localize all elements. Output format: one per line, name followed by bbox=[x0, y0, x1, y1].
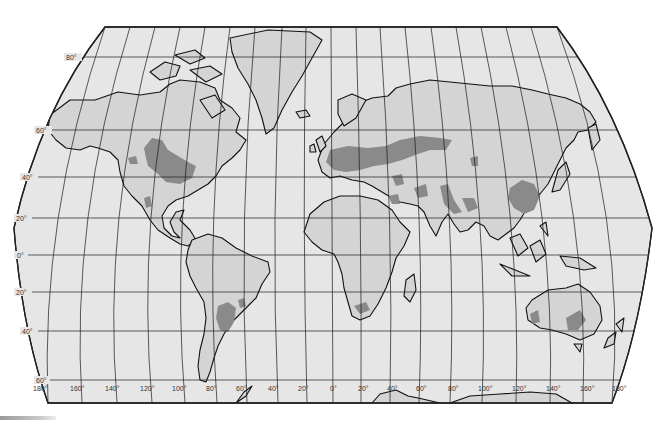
lon-label: 120° bbox=[512, 385, 527, 392]
lon-label: 80° bbox=[206, 385, 217, 392]
lat-label: 0° bbox=[17, 252, 24, 259]
lat-label: 20° bbox=[16, 215, 27, 222]
lon-label: 100° bbox=[478, 385, 493, 392]
lat-label: 40° bbox=[22, 174, 33, 181]
lon-label: 140° bbox=[546, 385, 561, 392]
lon-label: 120° bbox=[140, 385, 155, 392]
lon-label: 60° bbox=[236, 385, 247, 392]
lon-label: 0° bbox=[330, 385, 337, 392]
lon-label: 180° bbox=[33, 385, 48, 392]
lon-label: 20° bbox=[298, 385, 309, 392]
lon-label: 60° bbox=[416, 385, 427, 392]
lon-label: 180° bbox=[612, 385, 627, 392]
lon-label: 160° bbox=[580, 385, 595, 392]
lat-label: 40° bbox=[22, 328, 33, 335]
lon-label: 160° bbox=[70, 385, 85, 392]
lon-label: 40° bbox=[268, 385, 279, 392]
lon-label: 20° bbox=[358, 385, 369, 392]
page-edge-shadow bbox=[0, 416, 56, 420]
lat-label: 60° bbox=[36, 377, 47, 384]
lon-label: 40° bbox=[387, 385, 398, 392]
lat-label: 80° bbox=[66, 54, 77, 61]
lon-label: 80° bbox=[448, 385, 459, 392]
lon-label: 140° bbox=[105, 385, 120, 392]
lat-label: 20° bbox=[16, 289, 27, 296]
lon-label: 100° bbox=[172, 385, 187, 392]
world-map: 80° 60° 40° 20° 0° 20° 40° 60° 180° 160°… bbox=[0, 0, 661, 423]
lat-label: 60° bbox=[36, 127, 47, 134]
